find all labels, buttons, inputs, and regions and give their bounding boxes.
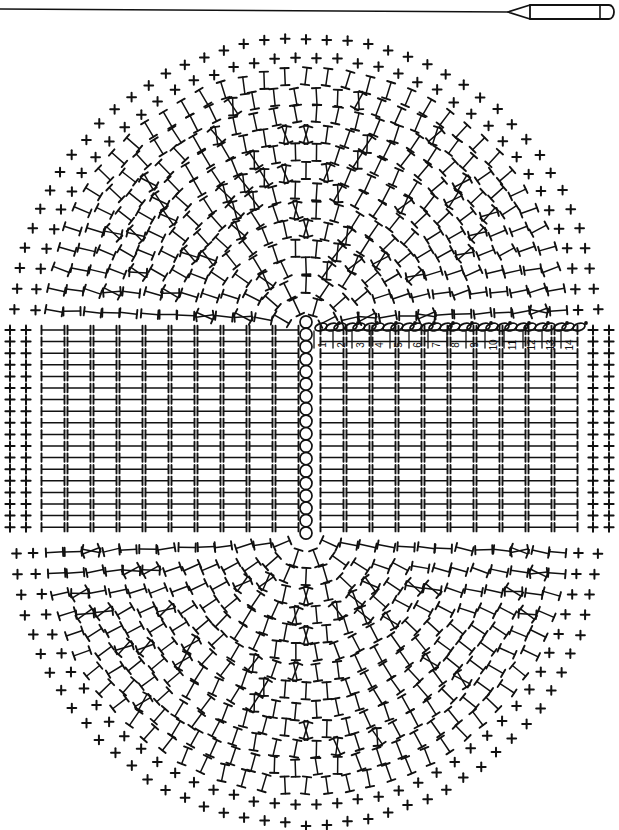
stitch-stem [406, 585, 423, 588]
stitch-stem [104, 231, 121, 234]
single-crochet-symbol [5, 488, 14, 497]
single-crochet-symbol [57, 205, 66, 214]
stitch-stem [449, 140, 459, 154]
stitch-stem [490, 291, 507, 293]
single-crochet-symbol [555, 224, 564, 233]
single-crochet-symbol [36, 204, 45, 213]
stitch-stem [373, 689, 382, 704]
stitch-cap [290, 756, 298, 758]
stitch-cap [538, 247, 540, 255]
stitch-cap [485, 585, 487, 593]
stitch-stem [486, 270, 503, 274]
single-crochet-symbol [5, 360, 14, 369]
stitch-cap [440, 586, 441, 594]
increase-cluster [288, 662, 302, 681]
stitch-cap [72, 652, 75, 660]
stitch-stem [190, 273, 206, 279]
single-crochet-symbol [394, 786, 403, 795]
stitch-cap [295, 548, 303, 551]
stitch-stem [410, 136, 419, 150]
stitch-stem [365, 272, 378, 283]
stitch-stem [315, 643, 318, 660]
single-crochet-symbol [459, 773, 468, 782]
stitch-stem [306, 568, 307, 585]
stitch-cap [105, 568, 106, 576]
stitch-stem [333, 297, 346, 308]
stitch-cap [180, 700, 187, 704]
stitch-cap [517, 248, 520, 256]
single-crochet-symbol [588, 499, 597, 508]
single-crochet-symbol [111, 748, 120, 757]
stitch-cap [272, 640, 280, 641]
stitch-stem [504, 270, 521, 274]
stitch-cap [445, 151, 452, 156]
stitch-stem [355, 291, 368, 302]
stitch-stem [336, 244, 338, 261]
stitch-cap [416, 134, 423, 139]
stitch-cap [249, 113, 257, 115]
stitch-stem [313, 299, 318, 315]
stitch-cap [435, 311, 436, 319]
stitch-cap [147, 629, 151, 636]
stitch-cap [300, 219, 308, 221]
single-crochet-symbol [21, 488, 30, 497]
stitch-stem [305, 68, 307, 85]
stitch-stem [442, 689, 454, 701]
stitch-cap [270, 539, 271, 547]
single-crochet-symbol [364, 40, 373, 49]
single-crochet-symbol [493, 105, 502, 114]
stitch-stem [238, 577, 248, 591]
stitch-stem [211, 216, 222, 229]
stitch-cap [314, 680, 322, 681]
stitch-cap [507, 569, 509, 577]
stitch-cap [377, 540, 379, 548]
increase-cluster [104, 224, 123, 242]
stitch-cap [469, 621, 474, 628]
stitch-cap [251, 108, 259, 110]
stitch-stem [362, 581, 378, 588]
stitch-stem [118, 641, 130, 654]
stitch-stem [59, 247, 75, 252]
stitch-stem [89, 590, 106, 593]
stitch-stem [446, 657, 459, 668]
stitch-stem [244, 561, 258, 571]
increase-cluster [381, 611, 400, 630]
increase-cluster [346, 255, 365, 274]
stitch-cap [231, 637, 238, 642]
single-crochet-symbol [56, 168, 65, 177]
single-crochet-symbol [604, 441, 613, 450]
stitch-cap [103, 288, 104, 296]
single-crochet-symbol [537, 187, 546, 196]
stitch-stem [316, 606, 318, 623]
single-crochet-symbol [120, 123, 129, 132]
row-number-label: 5 [393, 342, 404, 348]
stitch-cap [74, 248, 76, 256]
stitch-cap [335, 204, 343, 206]
stitch-stem [412, 294, 429, 298]
stitch-stem [531, 308, 547, 314]
stitch-cap [228, 743, 236, 746]
chain-stitch [300, 316, 312, 328]
stitch-cap [341, 87, 349, 89]
fan-ring [65, 546, 550, 777]
stitch-cap [234, 313, 235, 321]
stitch-stem [340, 576, 352, 588]
stitch-cap [217, 295, 220, 303]
stitch-stem [395, 108, 402, 124]
stitch-cap [346, 70, 354, 72]
single-crochet-symbol [77, 169, 86, 178]
stitch-cap [324, 126, 332, 127]
stitch-cap [490, 622, 495, 629]
stitch-cap [504, 632, 509, 639]
single-crochet-symbol [507, 120, 516, 129]
fan-ring [272, 536, 339, 567]
stitch-stem [494, 549, 511, 551]
stitch-stem [192, 714, 202, 728]
increase-cluster [369, 727, 386, 746]
stitch-stem [187, 636, 196, 651]
stitch-stem [456, 547, 473, 551]
stitch-stem [374, 159, 381, 174]
stitch-cap [324, 222, 332, 224]
row-number-label: 3 [355, 342, 366, 348]
fan-ring [157, 543, 452, 681]
